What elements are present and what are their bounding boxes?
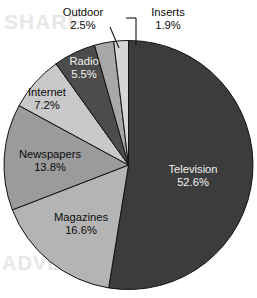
pie-label-internet-name: Internet (9, 86, 85, 99)
pie-label-newspapers: Newspapers 13.8% (2, 148, 98, 174)
pie-chart: SHARE ADVER Television 52.6% Magazines 1… (0, 0, 257, 298)
pie-label-television-name: Television (150, 163, 236, 176)
pie-label-inserts: Inserts 1.9% (139, 6, 197, 32)
pie-label-internet-value: 7.2% (9, 99, 85, 112)
pie-label-magazines-value: 16.6% (38, 224, 124, 237)
pie-label-inserts-name: Inserts (139, 6, 197, 19)
pie-label-outdoor-value: 2.5% (52, 19, 114, 32)
pie-label-inserts-value: 1.9% (139, 19, 197, 32)
pie-label-magazines-name: Magazines (38, 211, 124, 224)
pie-label-newspapers-name: Newspapers (2, 148, 98, 161)
pie-label-outdoor-name: Outdoor (52, 6, 114, 19)
pie-label-outdoor: Outdoor 2.5% (52, 6, 114, 32)
pie-label-newspapers-value: 13.8% (2, 161, 98, 174)
pie-label-television: Television 52.6% (150, 163, 236, 189)
pie-label-radio-value: 5.5% (56, 68, 112, 81)
pie-label-magazines: Magazines 16.6% (38, 211, 124, 237)
pie-label-internet: Internet 7.2% (9, 86, 85, 112)
pie-label-radio-name: Radio (56, 55, 112, 68)
pie-label-radio: Radio 5.5% (56, 55, 112, 81)
pie-label-television-value: 52.6% (150, 176, 236, 189)
